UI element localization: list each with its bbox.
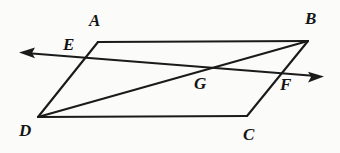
segment-side-BC	[247, 41, 308, 116]
segment-transversal-EF	[26, 53, 316, 76]
point-label-f: F	[280, 76, 292, 93]
segment-diagonal-DB	[38, 41, 308, 117]
point-label-e: E	[63, 36, 75, 53]
geometry-figure: A B C D E F G	[0, 0, 340, 153]
vertex-label-b: B	[305, 10, 317, 27]
vertex-label-a: A	[89, 12, 101, 29]
point-label-g: G	[194, 75, 206, 92]
arrow-right-icon	[308, 72, 324, 83]
segment-side-AB	[98, 41, 308, 42]
vertex-label-d: D	[19, 122, 31, 139]
vertex-label-c: C	[243, 126, 255, 143]
segment-side-DC	[38, 116, 247, 117]
